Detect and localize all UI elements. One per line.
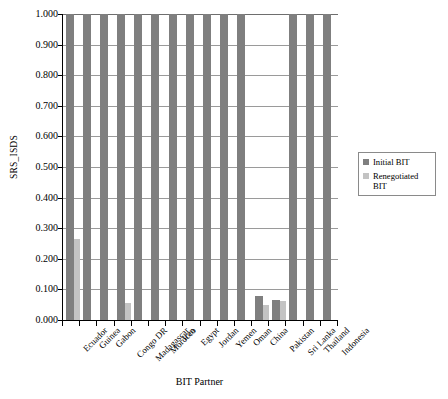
legend-item-renegotiated-bit: Renegotiated BIT	[363, 171, 431, 191]
bar-group	[97, 14, 114, 320]
x-axis-tick-label: China	[268, 326, 290, 348]
bar	[134, 14, 142, 320]
bar	[100, 14, 108, 320]
legend-swatch-icon-initial	[363, 159, 369, 165]
bar-group	[218, 14, 235, 320]
bar-group	[252, 14, 269, 320]
legend-swatch-icon-renegotiated	[363, 173, 369, 179]
y-axis-tick-label: 0.300	[14, 223, 58, 233]
y-axis-tick-label: 0.500	[14, 162, 58, 172]
bar-group	[321, 14, 338, 320]
bar-chart: SRS_ISDS 1.0000.9000.8000.7000.6000.5000…	[0, 0, 448, 399]
y-axis-tick-label: 0.200	[14, 254, 58, 264]
bar-group	[269, 14, 286, 320]
bar	[289, 14, 297, 320]
bar-series-container	[63, 14, 338, 320]
legend-item-initial-bit: Initial BIT	[363, 157, 431, 167]
bar	[186, 14, 194, 320]
bar	[263, 305, 269, 320]
bar-group	[286, 14, 303, 320]
bar	[74, 239, 80, 320]
bar-group	[201, 14, 218, 320]
bar	[66, 14, 74, 320]
y-axis-tick-label: 0.800	[14, 70, 58, 80]
bar	[306, 14, 314, 320]
x-axis-tick-mark	[337, 321, 338, 326]
bar-group	[183, 14, 200, 320]
bar	[237, 14, 245, 320]
bar	[323, 14, 331, 320]
legend-label-renegotiated: Renegotiated BIT	[373, 171, 431, 191]
bar-group	[304, 14, 321, 320]
y-axis-tick-labels: 1.0000.9000.8000.7000.6000.5000.4000.300…	[14, 14, 58, 320]
bar	[125, 303, 131, 320]
bar	[220, 14, 228, 320]
bar	[117, 14, 125, 320]
bar	[280, 301, 286, 320]
bar	[203, 14, 211, 320]
bar-group	[63, 14, 80, 320]
bar-group	[149, 14, 166, 320]
bar-group	[132, 14, 149, 320]
bar-group	[235, 14, 252, 320]
bar-group	[115, 14, 132, 320]
bar-group	[80, 14, 97, 320]
chart-legend: Initial BIT Renegotiated BIT	[358, 152, 436, 196]
y-axis-tick-label: 0.700	[14, 101, 58, 111]
y-axis-tick-label: 0.100	[14, 284, 58, 294]
y-axis-tick-label: 0.900	[14, 40, 58, 50]
y-axis-tick-label: 0.000	[14, 315, 58, 325]
plot-area	[62, 14, 338, 321]
legend-label-initial: Initial BIT	[373, 157, 431, 167]
y-axis-tick-label: 1.000	[14, 9, 58, 19]
x-axis-tick-labels: EcuadorGuineaGabonCongo DRMadagascarMoro…	[62, 326, 337, 374]
bar-group	[166, 14, 183, 320]
y-axis-tick-label: 0.400	[14, 193, 58, 203]
bar	[151, 14, 159, 320]
y-axis-tick-label: 0.600	[14, 131, 58, 141]
bar	[169, 14, 177, 320]
x-axis-title: BIT Partner	[62, 376, 337, 387]
bar	[255, 296, 263, 320]
bar	[272, 300, 280, 320]
bar	[83, 14, 91, 320]
